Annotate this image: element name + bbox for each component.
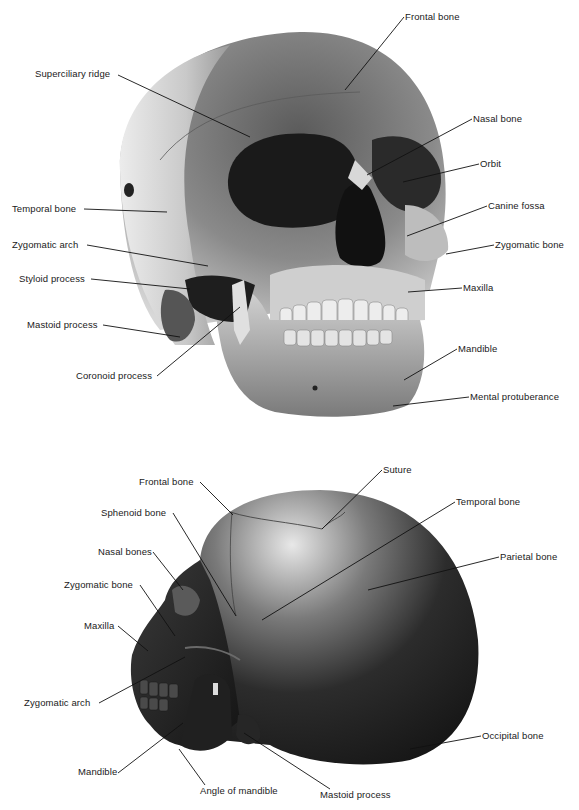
label-suture: Suture [383, 464, 412, 475]
label-mastoid-process: Mastoid process [27, 319, 98, 330]
label-maxilla-lateral: Maxilla [84, 620, 114, 631]
label-zygomatic-arch-lateral: Zygomatic arch [24, 697, 90, 708]
label-orbit: Orbit [480, 158, 501, 169]
label-canine-fossa: Canine fossa [488, 200, 545, 211]
label-mandible: Mandible [458, 343, 497, 354]
label-coronoid-process: Coronoid process [76, 370, 152, 381]
label-frontal-bone-lateral: Frontal bone [139, 476, 194, 487]
label-frontal-bone: Frontal bone [405, 11, 460, 22]
label-mental-protuberance: Mental protuberance [470, 391, 559, 402]
label-maxilla: Maxilla [463, 282, 493, 293]
label-sphenoid-bone: Sphenoid bone [101, 507, 166, 518]
label-temporal-bone: Temporal bone [12, 203, 76, 214]
label-temporal-bone-lateral: Temporal bone [456, 496, 520, 507]
label-zygomatic-bone: Zygomatic bone [495, 239, 564, 250]
label-mandible-lateral: Mandible [78, 766, 117, 777]
label-zygomatic-bone-lateral: Zygomatic bone [64, 579, 133, 590]
label-styloid-process: Styloid process [19, 273, 85, 284]
label-zygomatic-arch: Zygomatic arch [12, 239, 78, 250]
label-nasal-bones: Nasal bones [98, 546, 152, 557]
front-skull [120, 32, 448, 417]
skull-anatomy-figure: Frontal bone Superciliary ridge Nasal bo… [0, 0, 579, 810]
label-angle-of-mandible: Angle of mandible [200, 785, 278, 796]
label-mastoid-process-lateral: Mastoid process [320, 789, 391, 800]
label-parietal-bone: Parietal bone [500, 551, 557, 562]
label-occipital-bone: Occipital bone [482, 730, 544, 741]
label-nasal-bone: Nasal bone [473, 113, 522, 124]
label-superciliary-ridge: Superciliary ridge [35, 68, 110, 79]
